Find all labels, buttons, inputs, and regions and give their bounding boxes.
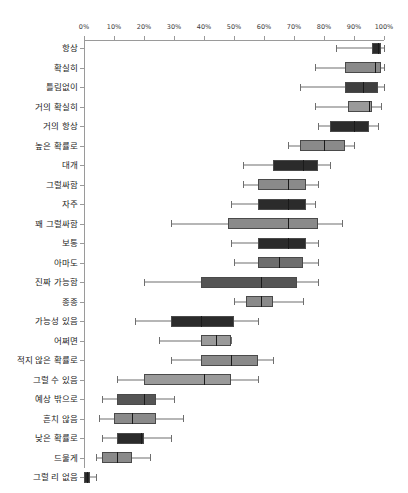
lower-whisker	[135, 321, 171, 322]
upper-whisker-cap	[354, 142, 355, 149]
lower-whisker-cap	[315, 64, 316, 71]
box-iqr	[117, 433, 144, 444]
y-axis-label: 자주	[62, 199, 78, 209]
median-line	[288, 238, 289, 249]
boxplot-chart: 항상확실히틀림없이거의 확실히거의 항상높은 확률로대개그럴싸함자주꽤 그럴싸함…	[0, 0, 408, 493]
y-axis-label: 종종	[62, 297, 78, 307]
lower-whisker	[102, 438, 117, 439]
x-tick-mark	[324, 36, 325, 40]
upper-whisker	[231, 379, 258, 380]
median-line	[288, 179, 289, 190]
upper-whisker	[156, 399, 174, 400]
lower-whisker-cap	[231, 240, 232, 247]
x-tick-label: 30%	[167, 23, 181, 31]
y-axis-label: 거의 항상	[43, 121, 78, 131]
median-line	[378, 43, 379, 54]
y-tick-mark	[80, 126, 84, 127]
upper-whisker-cap	[303, 298, 304, 305]
lower-whisker-cap	[102, 435, 103, 442]
upper-whisker-cap	[231, 337, 232, 344]
upper-whisker-cap	[378, 123, 379, 130]
y-tick-mark	[80, 341, 84, 342]
lower-whisker	[234, 262, 258, 263]
upper-whisker-cap	[174, 396, 175, 403]
upper-whisker	[369, 126, 378, 127]
lower-whisker-cap	[144, 279, 145, 286]
upper-whisker	[318, 165, 330, 166]
upper-whisker-cap	[171, 435, 172, 442]
upper-whisker-cap	[273, 357, 274, 364]
y-axis-line	[84, 40, 85, 468]
box-iqr	[258, 257, 303, 268]
y-axis-label: 어쩌면	[54, 336, 78, 346]
upper-whisker-cap	[330, 162, 331, 169]
lower-whisker-cap	[159, 337, 160, 344]
lower-whisker	[315, 67, 345, 68]
y-axis-label: 높은 확률로	[35, 141, 78, 151]
lower-whisker-cap	[315, 103, 316, 110]
lower-whisker-cap	[243, 162, 244, 169]
lower-whisker-cap	[243, 181, 244, 188]
y-axis-label: 확실히	[54, 63, 78, 73]
lower-whisker	[231, 243, 258, 244]
y-tick-mark	[80, 165, 84, 166]
upper-whisker-cap	[318, 279, 319, 286]
y-tick-mark	[80, 321, 84, 322]
y-axis-label: 가능성 있음	[35, 316, 78, 326]
y-tick-mark	[80, 48, 84, 49]
y-axis-label: 아마도	[54, 258, 78, 268]
median-line	[261, 277, 262, 288]
lower-whisker-cap	[288, 142, 289, 149]
upper-whisker-cap	[381, 103, 382, 110]
y-axis-label: 낮은 확률로	[35, 433, 78, 443]
upper-whisker-cap	[258, 376, 259, 383]
lower-whisker	[243, 184, 258, 185]
lower-whisker	[99, 418, 114, 419]
y-axis-label: 대개	[62, 160, 78, 170]
lower-whisker-cap	[234, 298, 235, 305]
median-line	[354, 121, 355, 132]
median-line	[87, 472, 88, 483]
y-tick-mark	[80, 282, 84, 283]
y-tick-mark	[80, 263, 84, 264]
lower-whisker	[102, 399, 117, 400]
y-tick-mark	[80, 68, 84, 69]
x-tick-label: 0%	[79, 23, 89, 31]
y-axis-label: 거의 확실히	[35, 102, 78, 112]
median-line	[216, 335, 217, 346]
median-line	[288, 199, 289, 210]
x-tick-label: 50%	[227, 23, 241, 31]
upper-whisker-cap	[318, 181, 319, 188]
y-axis-label: 그럴싸함	[46, 180, 78, 190]
x-tick-mark	[144, 36, 145, 40]
y-axis-label: 예상 밖으로	[35, 394, 78, 404]
x-tick-label: 20%	[137, 23, 151, 31]
x-tick-label: 80%	[317, 23, 331, 31]
y-tick-mark	[80, 419, 84, 420]
box-iqr	[114, 413, 156, 424]
box-iqr	[258, 238, 306, 249]
upper-whisker-cap	[96, 474, 97, 481]
y-axis-label: 흔치 않음	[43, 414, 78, 424]
y-tick-mark	[80, 399, 84, 400]
x-axis-line	[84, 40, 384, 41]
box-iqr	[144, 374, 231, 385]
y-axis-category-labels: 항상확실히틀림없이거의 확실히거의 항상높은 확률로대개그럴싸함자주꽤 그럴싸함…	[0, 40, 78, 470]
box-iqr	[228, 218, 318, 229]
median-line	[303, 160, 304, 171]
x-tick-mark	[174, 36, 175, 40]
lower-whisker	[234, 301, 246, 302]
median-line	[369, 101, 370, 112]
box-iqr	[330, 121, 369, 132]
upper-whisker	[345, 145, 354, 146]
y-axis-label: 그럴 수 있음	[33, 375, 78, 385]
lower-whisker	[171, 360, 201, 361]
lower-whisker-cap	[231, 201, 232, 208]
lower-whisker	[159, 340, 201, 341]
upper-whisker	[306, 204, 315, 205]
y-tick-mark	[80, 302, 84, 303]
y-tick-mark	[80, 107, 84, 108]
median-line	[117, 452, 118, 463]
upper-whisker	[258, 360, 273, 361]
lower-whisker-cap	[102, 396, 103, 403]
